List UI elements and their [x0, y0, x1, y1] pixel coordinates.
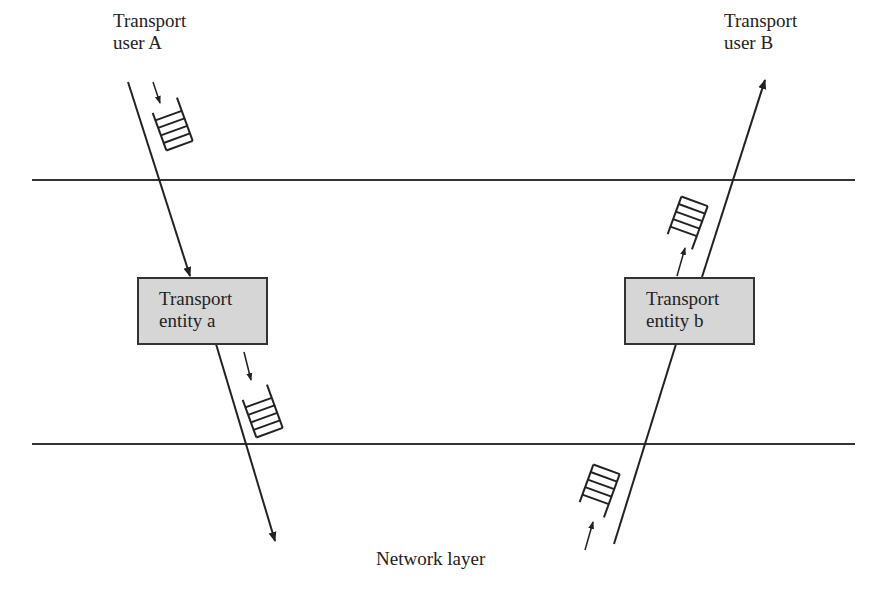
transport-user-b-label: Transport user B [724, 10, 797, 54]
transport-user-b-line1: Transport [724, 10, 797, 32]
entity-b-line2: entity b [646, 310, 719, 332]
transport-user-a-line1: Transport [113, 10, 186, 32]
transport-user-a-label: Transport user A [113, 10, 186, 54]
transport-user-b-line2: user B [724, 32, 797, 54]
queue-icon-b-lower [578, 465, 620, 550]
transport-entity-b-box: Transport entity b [624, 277, 755, 345]
entity-a-line2: entity a [159, 310, 232, 332]
queue-icon-a-upper [151, 82, 193, 150]
flow-arrow-a-lower [216, 344, 275, 541]
network-layer-label: Network layer [376, 548, 485, 570]
transport-entity-a-box: Transport entity a [137, 277, 268, 345]
entity-a-line1: Transport [159, 288, 232, 310]
queue-icon-a-lower [241, 352, 283, 437]
queue-icon-b-upper [666, 197, 708, 276]
transport-user-a-line2: user A [113, 32, 186, 54]
flow-arrow-b-upper [702, 80, 765, 277]
entity-b-line1: Transport [646, 288, 719, 310]
